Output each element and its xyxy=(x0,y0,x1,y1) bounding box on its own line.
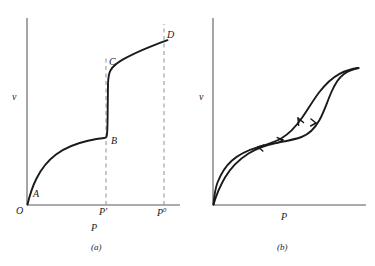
panel-a-origin-label: O xyxy=(16,206,23,216)
panel-b-y-axis-label: v xyxy=(199,92,203,102)
panel-a-tick-label-p-zero: P0 xyxy=(157,207,166,218)
panel-a-tick-p-zero-superscript: 0 xyxy=(163,206,166,213)
panel-a-caption: (a) xyxy=(91,243,102,252)
panel-a-tick-label-p-prime: P′ xyxy=(99,207,107,217)
panel-b-x-axis-label: P xyxy=(281,212,287,222)
panel-a-point-label-d: D xyxy=(167,30,174,40)
panel-b xyxy=(213,18,366,205)
arrow-adsorption-upper xyxy=(311,119,316,126)
panel-a-point-label-b: B xyxy=(111,136,117,146)
figure-svg xyxy=(0,0,375,266)
panel-a xyxy=(27,18,180,205)
panel-a-x-axis-label: P xyxy=(91,223,97,233)
panel-a-point-label-c: C xyxy=(109,57,116,67)
panel-b-caption: (b) xyxy=(277,243,288,252)
panel-a-point-label-a: A xyxy=(33,189,39,199)
figure-container: O v A B C D P′ P0 P (a) v P (b) xyxy=(0,0,375,266)
panel-a-y-axis-label: v xyxy=(12,92,16,102)
panel-b-desorption-branch xyxy=(214,68,359,205)
panel-a-isotherm-curve xyxy=(28,40,168,204)
